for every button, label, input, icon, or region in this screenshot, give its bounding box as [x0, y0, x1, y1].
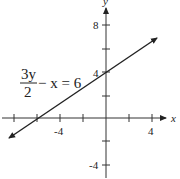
graph: -4 4 8 4 -4 x y 3y 2 − x = 6 [0, 0, 180, 179]
y-axis-label: y [102, 0, 108, 7]
equation-numerator: 3y [21, 66, 37, 82]
x-tick-label-neg4: -4 [54, 125, 64, 137]
y-tick-label-neg4: -4 [89, 159, 99, 171]
equation-rest: − x = 6 [38, 75, 82, 91]
x-axis-label: x [170, 112, 176, 124]
y-tick-label-8: 8 [93, 19, 99, 31]
equation-denominator: 2 [24, 84, 32, 100]
y-tick-label-4: 4 [93, 67, 99, 79]
x-tick-label-4: 4 [148, 125, 154, 137]
